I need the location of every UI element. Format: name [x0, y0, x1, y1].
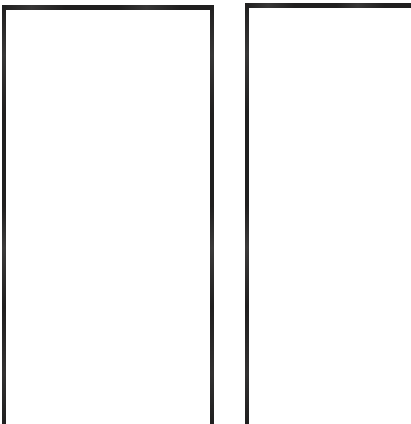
right-frame-interior: [249, 8, 411, 424]
scanned-page: Two tall open-bottom rectangular frames …: [0, 0, 411, 424]
right-frame-left-rule: [245, 3, 249, 424]
left-frame-top-rule: [2, 5, 214, 10]
column-gutter: [214, 0, 245, 424]
right-frame: [245, 3, 411, 424]
right-frame-top-rule: [245, 3, 411, 8]
left-frame-interior: [6, 10, 210, 424]
left-frame-left-rule: [2, 5, 6, 424]
left-frame: [2, 5, 214, 424]
